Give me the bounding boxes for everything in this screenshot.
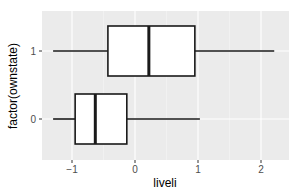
y-axis: 01 bbox=[30, 46, 42, 125]
y-tick-label: 1 bbox=[30, 46, 36, 57]
y-axis-title: factor(ownstate) bbox=[6, 43, 20, 129]
x-tick-label: 1 bbox=[195, 164, 201, 175]
x-tick-label: −1 bbox=[66, 164, 78, 175]
boxplot-chart: −1012 01 liveli factor(ownstate) bbox=[0, 0, 294, 194]
x-tick-label: 0 bbox=[132, 164, 138, 175]
iqr-box bbox=[108, 26, 195, 76]
x-axis-title: liveli bbox=[153, 176, 176, 190]
x-tick-label: 2 bbox=[258, 164, 264, 175]
y-tick-label: 0 bbox=[30, 114, 36, 125]
iqr-box bbox=[75, 94, 127, 144]
x-axis: −1012 bbox=[66, 160, 264, 175]
